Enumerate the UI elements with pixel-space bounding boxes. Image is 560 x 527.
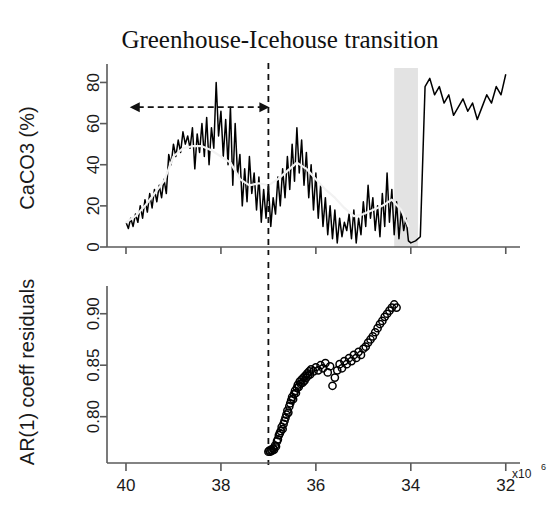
y-axis-tick-label: 80 — [84, 73, 103, 92]
y-axis-tick-label: 40 — [84, 155, 103, 174]
ar1-panel: 0.800.850.90 AR(1) coeff residuals — [16, 262, 400, 465]
scatter-point — [331, 374, 338, 381]
ar1-scatter-group — [265, 301, 400, 455]
y-axis-tick-label: 60 — [84, 114, 103, 133]
chart-figure: Greenhouse-Icehouse transition 020406080… — [0, 0, 560, 527]
ar1-axis: 0.800.850.90 — [84, 286, 107, 463]
x-axis-tick-label: 34 — [401, 476, 420, 495]
caco3-raw-line — [126, 74, 506, 243]
chart-svg: Greenhouse-Icehouse transition 020406080… — [0, 0, 560, 527]
x-axis-tick-label: 36 — [306, 476, 325, 495]
chart-title: Greenhouse-Icehouse transition — [121, 26, 439, 53]
caco3-axis-title: CaCO3 (%) — [16, 106, 38, 209]
scatter-point — [329, 382, 336, 389]
x-axis-exponent-power: 6 — [541, 462, 546, 472]
caco3-panel: 020406080 CaCO3 (%) — [16, 63, 520, 255]
y-axis-tick-label: 20 — [84, 196, 103, 215]
y-axis-tick-label: 0.80 — [84, 400, 103, 433]
duration-arrow-head-left — [130, 102, 140, 112]
x-axis-tick-label: 40 — [117, 476, 136, 495]
duration-double-arrow — [130, 102, 270, 112]
ar1-axis-title: AR(1) coeff residuals — [16, 279, 38, 465]
caco3-series-group — [126, 74, 506, 243]
x-axis-tick-label: 38 — [211, 476, 230, 495]
x-axis: 4038363432 — [107, 463, 520, 495]
y-axis-tick-label: 0.85 — [84, 349, 103, 382]
x-axis-exponent-label: x10 — [512, 467, 532, 481]
y-axis-tick-label: 0 — [84, 242, 103, 251]
y-axis-tick-label: 0.90 — [84, 297, 103, 330]
